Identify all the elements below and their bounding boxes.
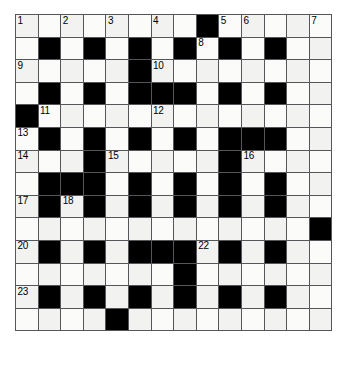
- letter-cell[interactable]: [241, 308, 264, 331]
- letter-cell[interactable]: [196, 263, 219, 286]
- letter-cell[interactable]: [241, 105, 264, 128]
- letter-cell[interactable]: [196, 218, 219, 241]
- letter-cell[interactable]: [128, 105, 151, 128]
- letter-cell[interactable]: [61, 308, 84, 331]
- letter-cell[interactable]: [16, 263, 39, 286]
- letter-cell[interactable]: [196, 308, 219, 331]
- letter-cell[interactable]: 18: [61, 195, 84, 218]
- letter-cell[interactable]: [38, 308, 61, 331]
- letter-cell[interactable]: [106, 105, 129, 128]
- letter-cell[interactable]: [196, 127, 219, 150]
- letter-cell[interactable]: [61, 60, 84, 83]
- letter-cell[interactable]: [241, 60, 264, 83]
- letter-cell[interactable]: [287, 286, 310, 309]
- letter-cell[interactable]: [287, 240, 310, 263]
- letter-cell[interactable]: [196, 82, 219, 105]
- letter-cell[interactable]: 5: [219, 15, 242, 38]
- letter-cell[interactable]: [264, 60, 287, 83]
- letter-cell[interactable]: [174, 60, 197, 83]
- letter-cell[interactable]: [309, 263, 332, 286]
- letter-cell[interactable]: [38, 15, 61, 38]
- letter-cell[interactable]: [219, 263, 242, 286]
- letter-cell[interactable]: [241, 82, 264, 105]
- letter-cell[interactable]: [309, 127, 332, 150]
- letter-cell[interactable]: [309, 195, 332, 218]
- letter-cell[interactable]: [174, 150, 197, 173]
- letter-cell[interactable]: [196, 105, 219, 128]
- letter-cell[interactable]: [241, 286, 264, 309]
- letter-cell[interactable]: [287, 82, 310, 105]
- letter-cell[interactable]: 6: [241, 15, 264, 38]
- letter-cell[interactable]: [128, 15, 151, 38]
- letter-cell[interactable]: [83, 308, 106, 331]
- letter-cell[interactable]: [309, 150, 332, 173]
- letter-cell[interactable]: [106, 240, 129, 263]
- letter-cell[interactable]: [128, 218, 151, 241]
- letter-cell[interactable]: [151, 173, 174, 196]
- letter-cell[interactable]: [83, 60, 106, 83]
- letter-cell[interactable]: [106, 218, 129, 241]
- letter-cell[interactable]: [61, 218, 84, 241]
- letter-cell[interactable]: 20: [16, 240, 39, 263]
- letter-cell[interactable]: [106, 173, 129, 196]
- letter-cell[interactable]: [106, 286, 129, 309]
- letter-cell[interactable]: [16, 173, 39, 196]
- letter-cell[interactable]: [38, 263, 61, 286]
- letter-cell[interactable]: [219, 60, 242, 83]
- letter-cell[interactable]: 14: [16, 150, 39, 173]
- letter-cell[interactable]: [16, 218, 39, 241]
- letter-cell[interactable]: [106, 37, 129, 60]
- letter-cell[interactable]: 23: [16, 286, 39, 309]
- letter-cell[interactable]: 3: [106, 15, 129, 38]
- letter-cell[interactable]: [241, 218, 264, 241]
- letter-cell[interactable]: 17: [16, 195, 39, 218]
- letter-cell[interactable]: [83, 263, 106, 286]
- letter-cell[interactable]: 10: [151, 60, 174, 83]
- letter-cell[interactable]: [151, 308, 174, 331]
- letter-cell[interactable]: [241, 173, 264, 196]
- letter-cell[interactable]: [83, 105, 106, 128]
- letter-cell[interactable]: 15: [106, 150, 129, 173]
- crossword-grid[interactable]: 123456789101112131415161718202223: [15, 14, 332, 331]
- letter-cell[interactable]: [38, 150, 61, 173]
- letter-cell[interactable]: [106, 82, 129, 105]
- letter-cell[interactable]: [309, 240, 332, 263]
- letter-cell[interactable]: 13: [16, 127, 39, 150]
- letter-cell[interactable]: [128, 150, 151, 173]
- letter-cell[interactable]: [196, 60, 219, 83]
- letter-cell[interactable]: [174, 218, 197, 241]
- letter-cell[interactable]: [241, 263, 264, 286]
- letter-cell[interactable]: [287, 195, 310, 218]
- letter-cell[interactable]: 9: [16, 60, 39, 83]
- letter-cell[interactable]: [16, 82, 39, 105]
- letter-cell[interactable]: [196, 150, 219, 173]
- letter-cell[interactable]: [174, 15, 197, 38]
- letter-cell[interactable]: [219, 218, 242, 241]
- letter-cell[interactable]: 22: [196, 240, 219, 263]
- letter-cell[interactable]: [151, 195, 174, 218]
- letter-cell[interactable]: [61, 240, 84, 263]
- letter-cell[interactable]: [309, 82, 332, 105]
- letter-cell[interactable]: [287, 150, 310, 173]
- letter-cell[interactable]: [287, 37, 310, 60]
- letter-cell[interactable]: [16, 37, 39, 60]
- letter-cell[interactable]: [309, 37, 332, 60]
- letter-cell[interactable]: [38, 218, 61, 241]
- letter-cell[interactable]: [264, 15, 287, 38]
- letter-cell[interactable]: 16: [241, 150, 264, 173]
- letter-cell[interactable]: [287, 218, 310, 241]
- letter-cell[interactable]: [106, 263, 129, 286]
- letter-cell[interactable]: [174, 105, 197, 128]
- letter-cell[interactable]: 12: [151, 105, 174, 128]
- letter-cell[interactable]: [241, 37, 264, 60]
- letter-cell[interactable]: [309, 286, 332, 309]
- letter-cell[interactable]: [83, 218, 106, 241]
- letter-cell[interactable]: [219, 308, 242, 331]
- letter-cell[interactable]: [151, 37, 174, 60]
- letter-cell[interactable]: 1: [16, 15, 39, 38]
- letter-cell[interactable]: [264, 308, 287, 331]
- letter-cell[interactable]: [196, 195, 219, 218]
- letter-cell[interactable]: [241, 195, 264, 218]
- letter-cell[interactable]: [61, 150, 84, 173]
- letter-cell[interactable]: [287, 127, 310, 150]
